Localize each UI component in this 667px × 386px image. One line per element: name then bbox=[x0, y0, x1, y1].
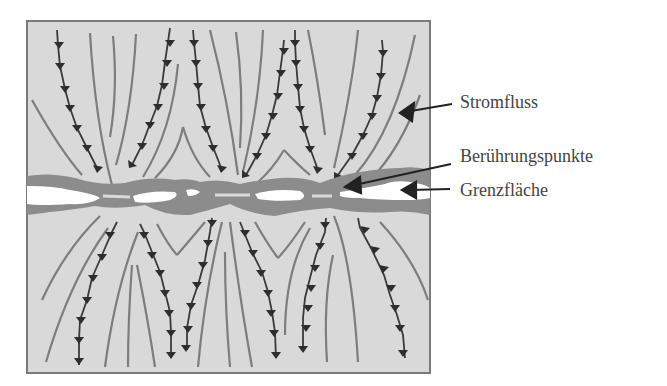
label-current-flow: Stromfluss bbox=[460, 93, 538, 111]
contact-diagram bbox=[0, 0, 667, 386]
label-interface: Grenzfläche bbox=[460, 181, 548, 199]
label-contact-points: Berührungspunkte bbox=[460, 147, 593, 165]
